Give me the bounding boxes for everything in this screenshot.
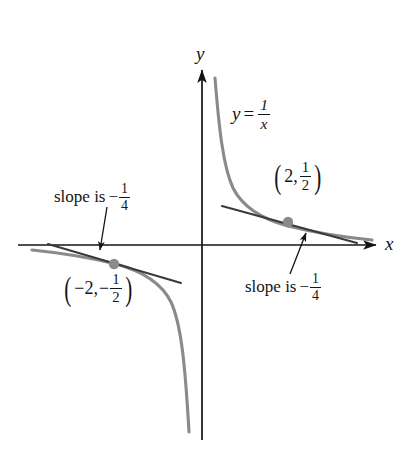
point-label-right-denominator: 2 [300,177,311,193]
point-label-right-numerator: 1 [300,160,311,177]
slope-annotation-right-minus: − [299,277,309,296]
point-label-right-close-paren: ) [314,163,321,190]
curve-equation-fraction: 1x [258,97,270,131]
slope-annotation-right-denominator: 4 [310,288,321,303]
curve-equation-numerator: 1 [258,97,270,115]
point-label-right: (2,12) [272,160,324,193]
slope-annotation-right: slope is−14 [245,272,322,303]
point-label-right-x: 2, [283,167,299,185]
slope-annotation-left-text: slope is [54,187,105,206]
point-label-left-denominator: 2 [110,289,121,305]
slope-leader-arrow-right [290,233,306,274]
curve-equation-lhs: y [232,103,240,124]
slope-annotation-left: slope is−14 [54,182,131,213]
math-figure-canvas: y x y=1x slope is−14 slope is−14 (2,12) … [0,0,420,460]
point-label-left-numerator: 1 [110,272,121,289]
curve-equation-equals: = [243,103,254,124]
slope-annotation-left-minus: − [108,187,118,206]
point-label-left-fraction: 12 [110,272,121,305]
tangency-dot-left [109,259,119,269]
slope-annotation-right-numerator: 1 [310,272,321,288]
point-label-left-x: −2, [73,279,99,297]
point-label-left-close-paren: ) [125,275,132,302]
slope-leader-arrow-left [100,207,107,250]
slope-annotation-left-numerator: 1 [119,182,130,198]
graph-plot-area [0,0,420,460]
tangency-dot-right [283,217,293,227]
slope-annotation-right-fraction: 14 [310,272,321,303]
y-axis-label: y [196,44,204,63]
point-label-left: (−2,−12) [62,272,134,305]
point-label-left-minus: − [99,279,109,297]
curve-equation-label: y=1x [232,97,271,131]
point-label-right-fraction: 12 [300,160,311,193]
slope-annotation-left-fraction: 14 [119,182,130,213]
point-label-left-open-paren: ( [64,275,71,302]
point-label-right-open-paren: ( [274,163,281,190]
curve-equation-denominator: x [258,115,270,132]
slope-annotation-right-text: slope is [245,277,296,296]
x-axis-label: x [385,234,393,253]
slope-annotation-left-denominator: 4 [119,198,130,213]
